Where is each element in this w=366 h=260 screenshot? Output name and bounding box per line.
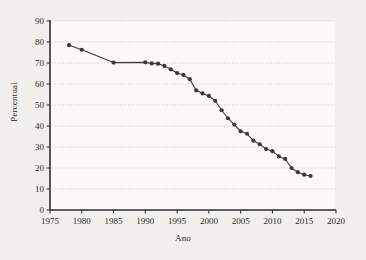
svg-text:60: 60 bbox=[35, 79, 45, 89]
svg-text:1975: 1975 bbox=[41, 216, 60, 226]
svg-text:1995: 1995 bbox=[168, 216, 187, 226]
line-chart: 0102030405060708090 19751980198519901995… bbox=[0, 0, 366, 260]
svg-text:1985: 1985 bbox=[105, 216, 124, 226]
svg-text:2000: 2000 bbox=[200, 216, 219, 226]
svg-text:1980: 1980 bbox=[73, 216, 92, 226]
svg-text:50: 50 bbox=[35, 100, 45, 110]
svg-text:1990: 1990 bbox=[136, 216, 155, 226]
svg-text:2010: 2010 bbox=[263, 216, 282, 226]
svg-text:20: 20 bbox=[35, 163, 45, 173]
plot-area-background bbox=[50, 21, 335, 210]
svg-text:2015: 2015 bbox=[295, 216, 314, 226]
svg-text:90: 90 bbox=[35, 16, 45, 26]
svg-text:10: 10 bbox=[35, 184, 45, 194]
svg-text:30: 30 bbox=[35, 142, 45, 152]
svg-text:2005: 2005 bbox=[232, 216, 251, 226]
y-axis-title: Percentual bbox=[9, 72, 19, 132]
svg-text:40: 40 bbox=[35, 121, 45, 131]
svg-text:2020: 2020 bbox=[327, 216, 346, 226]
svg-text:70: 70 bbox=[35, 58, 45, 68]
x-axis-title: Ano bbox=[0, 233, 366, 243]
chart-figure: 0102030405060708090 19751980198519901995… bbox=[0, 0, 366, 260]
svg-text:80: 80 bbox=[35, 37, 45, 47]
svg-text:0: 0 bbox=[40, 205, 45, 215]
